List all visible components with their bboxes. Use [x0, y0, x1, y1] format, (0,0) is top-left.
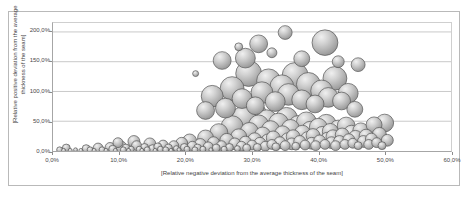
bubble-marker [192, 147, 198, 151]
bubble-marker [153, 148, 157, 151]
x-axis-tick-mark [452, 152, 453, 155]
bubble-marker [234, 146, 240, 151]
bubble-marker [113, 148, 117, 151]
x-axis-tick-label: 60,0% [443, 157, 460, 163]
bubble-marker [235, 48, 255, 68]
x-axis-tick-mark [52, 152, 53, 155]
y-axis-tick-mark [49, 122, 52, 123]
x-axis-tick-mark [185, 152, 186, 155]
y-axis-tick-mark [49, 31, 52, 32]
bubble-marker [267, 48, 277, 58]
y-axis-tick-label: 50,0% [33, 118, 50, 125]
y-axis-title-line2: thickness of the seam] [19, 0, 27, 135]
bubble-marker [212, 144, 220, 151]
bubble-series [53, 23, 451, 151]
bubble-marker [378, 142, 386, 150]
bubble-marker [104, 148, 108, 151]
bubble-marker [74, 148, 78, 151]
y-axis-tick-label: 200,0% [30, 27, 50, 34]
bubble-marker [221, 146, 227, 151]
x-axis-tick-label: 50,0% [377, 157, 394, 163]
bubble-chart: 0,0%50,0%100,0%150,0%200,0% 0,0%10,0%20,… [0, 0, 468, 197]
bubble-marker [62, 148, 66, 151]
bubble-marker [354, 142, 362, 150]
bubble-marker [144, 147, 150, 151]
bubble-marker [184, 146, 190, 151]
bubble-marker [243, 144, 251, 151]
y-axis-title: [Relative positive deviation from the av… [12, 0, 27, 135]
x-axis-tick-label: 10,0% [110, 157, 127, 163]
plot-area [52, 22, 452, 152]
bubble-marker [347, 101, 363, 117]
y-axis-tick-label: 150,0% [30, 57, 50, 64]
bubble-marker [120, 147, 126, 151]
bubble-marker [127, 148, 131, 151]
bubble-marker [331, 141, 341, 151]
bubble-marker [311, 141, 321, 151]
bubble-marker [332, 56, 344, 68]
bubble-marker [278, 26, 292, 40]
y-axis-tick-mark [49, 92, 52, 93]
bubble-marker [294, 51, 310, 67]
bubble-marker [140, 148, 144, 151]
bubble-marker [300, 140, 310, 150]
x-axis-tick-mark [319, 152, 320, 155]
x-axis-tick-label: 0,0% [45, 157, 59, 163]
x-axis-tick-mark [252, 152, 253, 155]
bubble-marker [68, 148, 72, 151]
bubble-marker [265, 92, 285, 112]
bubble-marker [169, 148, 173, 151]
y-axis-title-line1: [Relative positive deviation from the av… [12, 0, 20, 135]
bubble-marker [306, 95, 324, 113]
x-axis-tick-mark [119, 152, 120, 155]
bubble-marker [235, 43, 243, 51]
y-axis-tick-mark [49, 61, 52, 62]
x-axis-title: [Relative negative deviation from the av… [52, 170, 452, 176]
x-axis-tick-label: 40,0% [310, 157, 327, 163]
x-axis-tick-label: 30,0% [243, 157, 260, 163]
bubble-marker [79, 148, 83, 151]
bubble-marker [209, 148, 213, 151]
bubble-marker [177, 148, 181, 151]
x-axis-tick-mark [385, 152, 386, 155]
bubble-marker [213, 52, 231, 70]
bubble-marker [292, 142, 300, 150]
bubble-marker [280, 141, 290, 151]
bubble-marker [320, 140, 330, 150]
bubble-marker [253, 143, 261, 151]
bubble-marker [272, 143, 280, 151]
bubble-marker [250, 35, 268, 53]
bubble-marker [312, 30, 338, 56]
x-axis-tick-label: 20,0% [177, 157, 194, 163]
y-axis-tick-label: 0,0% [36, 148, 50, 155]
bubble-marker [200, 146, 206, 151]
bubble-marker [197, 102, 215, 120]
bubble-marker [193, 71, 199, 77]
bubble-marker [92, 148, 96, 151]
bubble-marker [246, 97, 264, 115]
bubble-marker [351, 58, 365, 72]
bubbles-group [57, 26, 394, 151]
y-axis-tick-label: 100,0% [30, 88, 50, 95]
bubble-marker [163, 147, 169, 151]
